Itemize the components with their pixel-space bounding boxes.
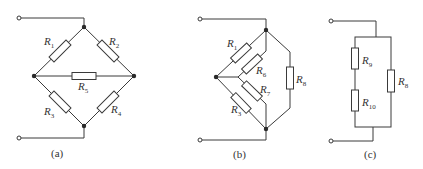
lead-bottom-b bbox=[202, 129, 266, 140]
figure-c: R9 R10 R8 (c) bbox=[329, 19, 409, 161]
label-r3-a: R3 bbox=[43, 105, 55, 120]
terminal-bottom-b bbox=[198, 138, 202, 142]
resistor-r8-c bbox=[388, 70, 395, 92]
terminal-top-c bbox=[329, 19, 333, 23]
label-r6-b: R6 bbox=[255, 64, 267, 79]
caption-b: (b) bbox=[233, 148, 246, 161]
caption-c: (c) bbox=[364, 148, 377, 161]
circuit-diagrams: R1 R2 R5 R3 R4 (a) R1 R6 R7 R3 R8 bbox=[0, 0, 423, 169]
lead-top-c bbox=[333, 21, 376, 37]
node-bottom-b bbox=[264, 127, 268, 131]
caption-a: (a) bbox=[51, 147, 64, 160]
terminal-bottom-a bbox=[17, 136, 21, 140]
figure-a: R1 R2 R5 R3 R4 (a) bbox=[17, 16, 136, 160]
figure-b: R1 R6 R7 R3 R8 (b) bbox=[198, 17, 307, 161]
label-r9-c: R9 bbox=[361, 54, 373, 69]
label-r8-b: R8 bbox=[295, 73, 307, 88]
resistor-r3-a bbox=[49, 91, 71, 113]
lead-bottom-c bbox=[333, 127, 373, 141]
label-r8-c: R8 bbox=[397, 75, 409, 90]
lead-top-b bbox=[202, 19, 266, 30]
terminal-top-b bbox=[198, 17, 202, 21]
node-right-a bbox=[132, 74, 136, 78]
lead-top-a bbox=[21, 18, 84, 27]
node-bottom-a bbox=[82, 124, 86, 128]
resistor-r5-a bbox=[72, 73, 96, 80]
node-top-a bbox=[82, 25, 86, 29]
lead-bottom-a bbox=[21, 126, 84, 138]
node-top-b bbox=[264, 28, 268, 32]
label-r4-a: R4 bbox=[110, 103, 122, 118]
label-r1-a: R1 bbox=[43, 35, 55, 50]
node-left-b bbox=[214, 75, 218, 79]
label-r5-a: R5 bbox=[77, 80, 89, 95]
terminal-bottom-c bbox=[329, 139, 333, 143]
resistor-r10-c bbox=[352, 90, 359, 111]
resistor-r9-c bbox=[352, 48, 359, 69]
label-r10-c: R10 bbox=[361, 96, 376, 111]
terminal-top-a bbox=[17, 16, 21, 20]
label-r1-b: R1 bbox=[226, 37, 238, 52]
node-left-a bbox=[32, 74, 36, 78]
parallel-loop-c bbox=[355, 37, 391, 127]
resistor-r8-b bbox=[287, 67, 294, 89]
